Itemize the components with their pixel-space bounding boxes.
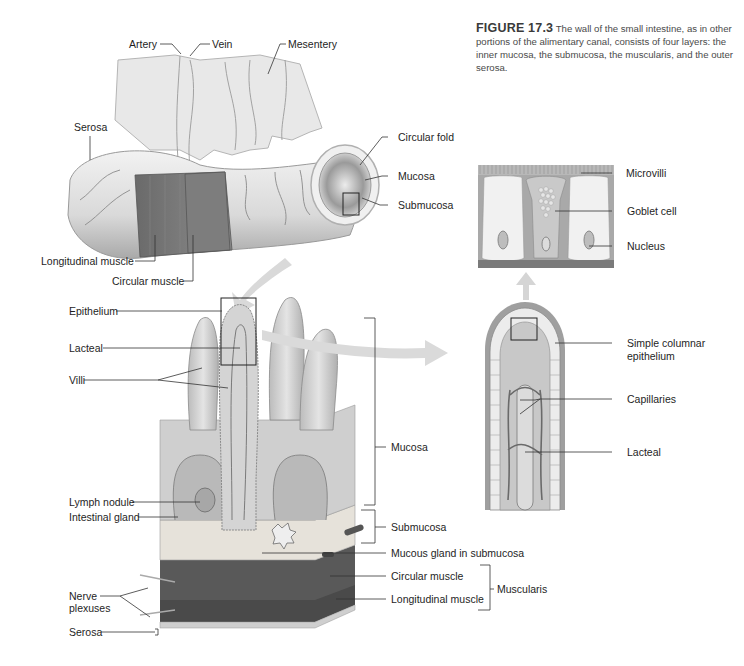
label-vein: Vein xyxy=(212,38,232,50)
label-circular-muscle-block: Circular muscle xyxy=(391,570,463,582)
label-serosa-block: Serosa xyxy=(69,626,102,638)
label-nerve-1: Nerve xyxy=(69,590,97,602)
mesentery-sheet xyxy=(115,55,322,165)
label-submucosa-tube: Submucosa xyxy=(398,199,453,211)
label-goblet-cell: Goblet cell xyxy=(627,205,677,217)
magnify-arrow-cells xyxy=(516,272,536,300)
label-mucosa-tube: Mucosa xyxy=(398,170,435,182)
label-mesentery: Mesentery xyxy=(288,38,337,50)
label-lymph-nodule: Lymph nodule xyxy=(69,496,135,508)
label-mucous-gland: Mucous gland in submucosa xyxy=(391,547,524,559)
label-nerve-2: plexuses xyxy=(69,602,110,614)
label-capillaries: Capillaries xyxy=(627,393,676,405)
label-longitudinal-muscle-block: Longitudinal muscle xyxy=(391,593,484,605)
label-circular-muscle-tube: Circular muscle xyxy=(112,275,184,287)
label-longitudinal-muscle-tube: Longitudinal muscle xyxy=(41,255,134,267)
label-villi: Villi xyxy=(69,374,85,386)
label-simple-columnar-1: Simple columnar xyxy=(627,337,705,349)
label-mucosa-block: Mucosa xyxy=(391,441,428,453)
label-lacteal-block: Lacteal xyxy=(69,342,103,354)
villus-detail xyxy=(485,302,565,510)
label-muscularis: Muscularis xyxy=(497,583,547,595)
label-intestinal-gland: Intestinal gland xyxy=(69,511,140,523)
intestine-illustration xyxy=(0,0,744,666)
intestine-tube xyxy=(68,145,379,258)
label-simple-columnar-2: epithelium xyxy=(627,350,675,362)
label-lacteal-detail: Lacteal xyxy=(627,446,661,458)
label-epithelium: Epithelium xyxy=(69,305,118,317)
cells-detail xyxy=(478,165,614,268)
label-circular-fold: Circular fold xyxy=(398,131,454,143)
label-microvilli: Microvilli xyxy=(626,167,666,179)
figure-17-3: FIGURE 17.3 The wall of the small intest… xyxy=(0,0,744,666)
label-artery: Artery xyxy=(129,38,157,50)
label-serosa-tube: Serosa xyxy=(74,121,107,133)
label-submucosa-block: Submucosa xyxy=(391,521,446,533)
label-nucleus: Nucleus xyxy=(627,240,665,252)
